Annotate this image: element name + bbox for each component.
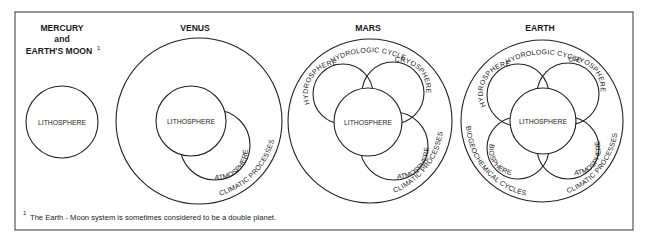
panel-earth: EARTH LITHOSPHERE HYDROSPHERE CRYOSPHERE… — [461, 23, 623, 202]
footnote-marker: 1 — [23, 210, 27, 216]
panel-title: VENUS — [180, 23, 210, 33]
lithosphere-label: LITHOSPHERE — [38, 119, 86, 126]
atmosphere-label: ATMOSPHERE — [215, 149, 249, 181]
panel-title: EARTH — [525, 23, 555, 33]
lithosphere-label: LITHOSPHERE — [519, 118, 567, 125]
footnote: 1 The Earth - Moon system is sometimes c… — [23, 210, 276, 222]
lithosphere-label: LITHOSPHERE — [167, 118, 215, 125]
hydrosphere-label: HYDROSPHERE — [302, 59, 338, 106]
climatic-processes-label: CLIMATIC PROCESSES — [218, 138, 275, 196]
climatic-processes-label: CLIMATIC PROCESSES — [392, 131, 444, 194]
panel-mars: MARS LITHOSPHERE HYDROSPHERE CRYOSPHERE … — [288, 23, 452, 203]
panel-title-line: and — [54, 34, 69, 44]
panel-title-line: EARTH'S MOON — [26, 46, 93, 56]
panel-title-line: MERCURY — [40, 23, 83, 33]
panel-mercury: MERCURY and EARTH'S MOON 1 LITHOSPHERE — [26, 23, 101, 158]
footnote-text: The Earth - Moon system is sometimes con… — [30, 213, 276, 222]
planetary-systems-diagram: MERCURY and EARTH'S MOON 1 LITHOSPHERE V… — [0, 0, 650, 242]
panel-venus: VENUS LITHOSPHERE ATMOSPHERE CLIMATIC PR… — [116, 23, 282, 204]
footnote-superscript: 1 — [97, 45, 101, 51]
lithosphere-label: LITHOSPHERE — [344, 119, 392, 126]
panel-title: MARS — [355, 23, 381, 33]
